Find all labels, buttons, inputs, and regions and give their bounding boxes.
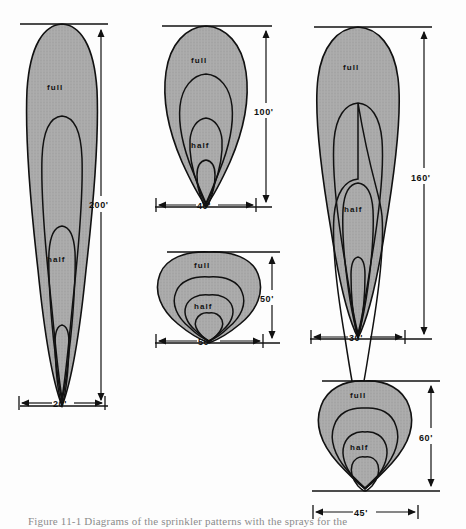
spray-pattern-figure: full half 200' 20' full half 100' [0, 0, 466, 529]
pattern-100ft: full half 100' 40' [155, 26, 274, 212]
height-dim-label: 200' [89, 200, 109, 210]
width-dimension: 40' [156, 198, 256, 212]
width-dim-label: 40' [197, 201, 211, 211]
pattern-60ft: full half 60' 45' [312, 381, 440, 519]
full-label: full [343, 63, 359, 72]
half-label: half [350, 443, 369, 452]
height-dim-label: 50' [260, 294, 274, 304]
full-label: full [191, 56, 207, 65]
pattern-160ft: full half 160' 30' [310, 27, 432, 409]
width-dim-label: 20' [53, 399, 67, 409]
width-dimension: 50' [156, 334, 263, 348]
pattern-50ft: full half 50' 50' [155, 252, 280, 348]
half-label: half [191, 141, 210, 150]
figure-caption: Figure 11-1 Diagrams of the sprinkler pa… [28, 515, 448, 529]
full-label: full [194, 261, 210, 270]
pattern-200ft: full half 200' 20' [19, 24, 109, 410]
full-label: full [350, 391, 366, 400]
width-dim-label: 50' [198, 337, 212, 347]
height-dim-label: 100' [254, 107, 274, 117]
height-dim-label: 160' [411, 173, 431, 183]
full-contour [27, 24, 98, 406]
width-dimension: 30' [311, 330, 405, 344]
width-dimension: 20' [19, 396, 105, 410]
half-label: half [344, 205, 363, 214]
height-dim-label: 60' [419, 433, 433, 443]
width-dim-label: 30' [349, 333, 363, 343]
full-contour [165, 26, 247, 206]
full-label: full [47, 83, 63, 92]
half-label: half [47, 255, 66, 264]
half-label: half [194, 302, 213, 311]
